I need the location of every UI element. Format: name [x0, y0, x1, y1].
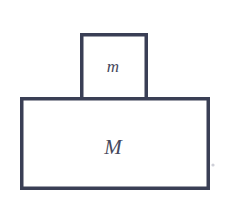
scan-speck-artifact [211, 163, 214, 166]
large-block-label: M [103, 135, 123, 159]
block-on-block-diagram: m M [0, 0, 238, 213]
diagram-canvas: m M [0, 0, 238, 213]
diagram-background [0, 0, 238, 213]
small-block-label: m [107, 57, 119, 76]
